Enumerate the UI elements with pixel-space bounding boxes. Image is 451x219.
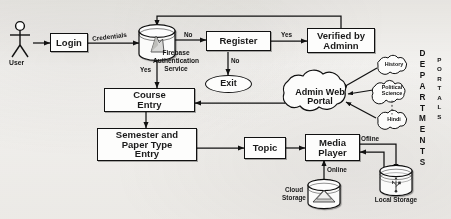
- side-column-portals: PORTALS: [437, 55, 442, 121]
- edge-history-portal: [342, 68, 377, 88]
- firebase-caption-line1: Firebase: [145, 49, 207, 57]
- node-exit-label: Exit: [220, 79, 237, 88]
- cloud-storage-shape: [308, 179, 340, 208]
- edge-label-online: Online: [327, 166, 347, 173]
- departments-letter-1: E: [420, 60, 426, 71]
- node-register[interactable]: Register: [206, 31, 271, 51]
- departments-letter-9: T: [420, 147, 425, 158]
- edge-polsci-portal: [348, 90, 373, 94]
- firebase-service-caption: Firebase Authentication Service: [145, 49, 207, 74]
- departments-letter-4: R: [419, 93, 425, 104]
- departments-letter-10: S: [420, 158, 426, 169]
- portals-letter-4: A: [437, 93, 441, 102]
- node-topic-label: Topic: [253, 143, 278, 153]
- departments-letter-3: A: [419, 82, 425, 93]
- history-cloud-shape: [378, 55, 407, 74]
- edge-label-register-no: No: [231, 57, 240, 64]
- departments-letter-2: P: [420, 71, 426, 82]
- actor-user-label: User: [9, 59, 24, 66]
- side-column-departments: DEPARTMENTS: [419, 49, 426, 169]
- node-verified-label-line1: Verified by: [317, 31, 365, 41]
- local-storage-shape: [380, 165, 412, 195]
- departments-letter-5: T: [420, 104, 425, 115]
- node-media-label-line1: Media: [319, 138, 346, 148]
- political-science-cloud-shape: [372, 80, 405, 103]
- cloud-storage-caption: Cloud Storage: [277, 186, 311, 202]
- stick-figure-icon: [10, 22, 30, 57]
- admin-web-portal-shape: [283, 70, 345, 110]
- node-topic[interactable]: Topic: [244, 137, 286, 159]
- node-course-entry[interactable]: Course Entry: [104, 88, 195, 112]
- node-login[interactable]: Login: [50, 33, 88, 52]
- portals-letter-2: R: [437, 74, 441, 83]
- portals-letter-1: O: [437, 64, 442, 73]
- firebase-caption-line2: Authentication: [145, 57, 207, 65]
- edge-label-auth-no: No: [184, 31, 193, 38]
- node-course-label-line2: Entry: [137, 100, 161, 110]
- departments-letter-6: M: [419, 114, 426, 125]
- node-verified-by-admin[interactable]: Verified by Adminn: [307, 28, 375, 53]
- portals-letter-6: S: [437, 112, 441, 121]
- node-semester-label-line3: Entry: [135, 149, 159, 159]
- node-login-label: Login: [56, 38, 82, 48]
- cloud-storage-label-line1: Cloud: [277, 186, 311, 194]
- node-exit[interactable]: Exit: [205, 75, 252, 93]
- departments-letter-0: D: [419, 49, 425, 60]
- edge-verified-firebase-loop: [157, 16, 341, 28]
- departments-letter-8: N: [419, 136, 425, 147]
- edge-label-offline: Ofline: [361, 135, 379, 142]
- node-register-label: Register: [219, 36, 257, 46]
- edge-label-register-yes: Yes: [281, 31, 292, 38]
- local-storage-caption: Local Storage: [366, 196, 426, 204]
- portals-letter-3: T: [438, 83, 442, 92]
- cloud-storage-label-line2: Storage: [277, 194, 311, 202]
- portals-letter-0: P: [437, 55, 441, 64]
- firebase-caption-line3: Service: [145, 65, 207, 73]
- edge-localstorage-media: [360, 152, 384, 170]
- node-media-player[interactable]: Media Player: [305, 134, 360, 161]
- node-media-label-line2: Player: [318, 148, 347, 158]
- edge-label-auth-yes: Yes: [140, 66, 151, 73]
- departments-letter-7: E: [420, 125, 426, 136]
- portals-letter-5: L: [438, 102, 442, 111]
- diagram-canvas: User Login Credentials Firebase Authenti…: [0, 0, 451, 219]
- edge-hindi-portal: [346, 102, 376, 118]
- node-verified-label-line2: Adminn: [323, 41, 358, 51]
- node-semester-paper-type-entry[interactable]: Semester and Paper Type Entry: [97, 128, 197, 161]
